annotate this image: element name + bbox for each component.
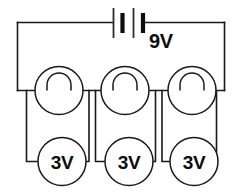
lamp-right <box>168 67 216 115</box>
lamp-left <box>35 67 83 115</box>
voltmeter-left-label: 3V <box>51 152 74 173</box>
circuit-diagram: 9V <box>0 0 242 193</box>
lamp-right-filament <box>180 73 204 91</box>
lamp-middle-filament <box>113 73 137 91</box>
voltmeter-right-label: 3V <box>183 152 206 173</box>
voltmeter-right: 3V <box>170 138 218 186</box>
lamp-left-filament <box>47 73 71 91</box>
wire-voltmeter-left-out <box>84 91 89 162</box>
battery-label: 9V <box>149 30 174 52</box>
circuit-svg: 9V <box>0 0 242 193</box>
voltmeter-left: 3V <box>38 138 86 186</box>
wire-voltmeter-middle-out <box>151 91 156 162</box>
voltmeter-middle: 3V <box>105 138 153 186</box>
lamp-middle <box>101 67 149 115</box>
battery-symbol: 9V <box>114 8 174 52</box>
voltmeter-middle-label: 3V <box>118 152 141 173</box>
